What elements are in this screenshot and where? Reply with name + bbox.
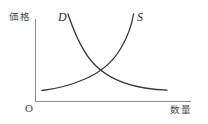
y-axis-label: 価格 [9,12,30,22]
supply-curve-label: S [137,11,143,23]
origin-label: O [25,103,33,114]
supply-demand-figure: 価格 数量 O D S [0,0,208,124]
demand-curve-label: D [58,11,67,23]
supply-curve [42,14,134,91]
x-axis-label: 数量 [170,105,191,115]
demand-curve [68,14,167,90]
